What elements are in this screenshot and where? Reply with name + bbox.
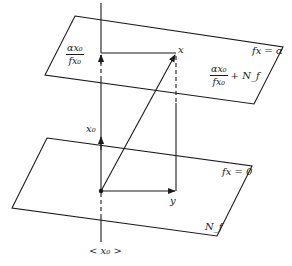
fraction-numerator: αx₀ xyxy=(66,43,84,55)
x0-vector-label: x₀ xyxy=(86,124,96,134)
upper-plane-equation: fx = α xyxy=(252,46,283,56)
origin-point xyxy=(99,189,103,193)
axis-label: < x₀ > xyxy=(89,246,122,256)
scaled-x0-label: αx₀ fx₀ xyxy=(66,43,84,65)
fraction-denominator: fx₀ xyxy=(68,55,81,66)
affine-set-label: αx₀ fx₀ + N_f xyxy=(210,64,260,86)
affine-fraction-denominator: fx₀ xyxy=(212,76,225,87)
affine-fraction-numerator: αx₀ xyxy=(210,64,228,76)
x-point-label: x xyxy=(178,45,184,55)
y-point-label: y xyxy=(170,196,176,206)
lower-plane-equation: fx = 0 xyxy=(222,167,252,177)
diagram-canvas xyxy=(0,0,292,266)
nullspace-label: N_f xyxy=(205,222,222,232)
x-vector xyxy=(101,55,175,191)
affine-set-fraction: αx₀ fx₀ xyxy=(210,64,228,86)
affine-set-suffix: + N_f xyxy=(231,70,260,81)
